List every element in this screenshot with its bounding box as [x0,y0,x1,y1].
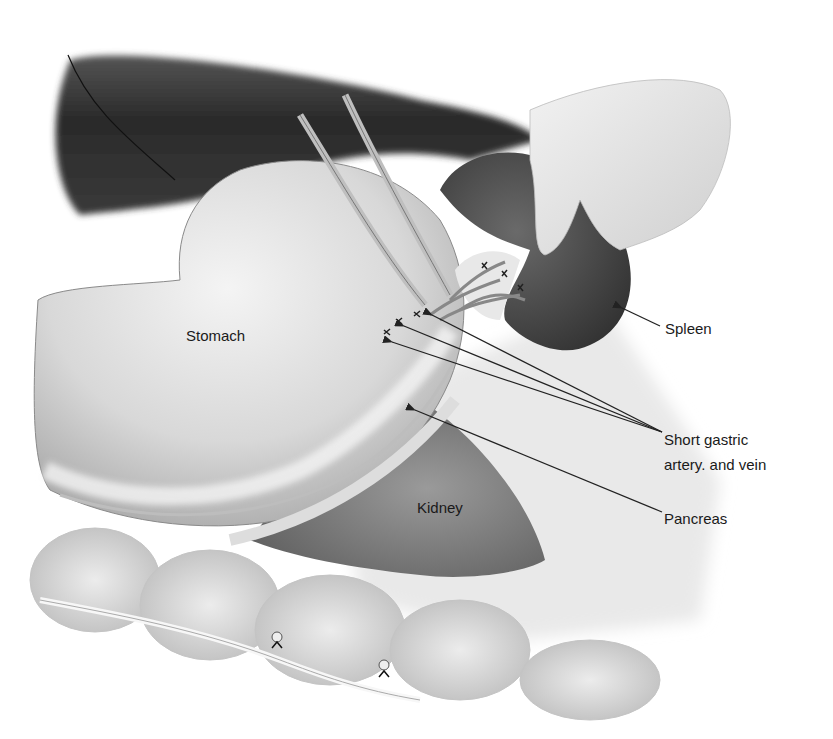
label-spleen: Spleen [665,319,712,338]
label-short-gastric-line2: artery. and vein [664,455,766,474]
label-kidney: Kidney [417,498,463,517]
anatomy-illustration [0,0,833,739]
label-pancreas: Pancreas [664,509,727,528]
illustration-canvas: Stomach Kidney Spleen Short gastric arte… [0,0,833,739]
surgeon-hand [530,80,730,255]
label-short-gastric-line1: Short gastric [664,430,748,449]
label-stomach: Stomach [186,326,245,345]
spleen-leader [622,308,660,326]
